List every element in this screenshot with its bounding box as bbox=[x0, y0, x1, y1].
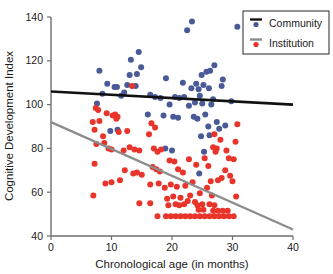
data-point-institution bbox=[173, 201, 179, 207]
data-point-institution bbox=[187, 192, 193, 198]
data-point-community bbox=[186, 103, 192, 109]
x-tick-label: 20 bbox=[166, 241, 178, 253]
data-point-institution bbox=[180, 169, 186, 175]
data-point-community bbox=[138, 64, 144, 70]
y-axis-title: Cognitive Development Index bbox=[3, 51, 15, 201]
data-point-community bbox=[194, 116, 200, 122]
data-point-institution bbox=[90, 119, 96, 125]
data-point-institution bbox=[202, 155, 208, 161]
data-point-institution bbox=[92, 161, 98, 167]
data-point-institution bbox=[104, 110, 110, 116]
data-point-community bbox=[180, 80, 186, 86]
y-tick-label: 140 bbox=[25, 11, 43, 23]
data-point-institution bbox=[129, 83, 135, 89]
data-point-community bbox=[163, 75, 169, 81]
data-point-community bbox=[196, 86, 202, 92]
data-point-institution bbox=[233, 194, 239, 200]
data-point-institution bbox=[139, 172, 145, 178]
y-tick-label: 40 bbox=[31, 230, 43, 242]
x-tick-label: 40 bbox=[287, 241, 299, 253]
data-point-community bbox=[161, 113, 167, 119]
data-point-community bbox=[216, 126, 222, 132]
data-point-institution bbox=[162, 185, 168, 191]
legend-marker-community bbox=[253, 22, 258, 27]
data-point-community bbox=[136, 49, 142, 55]
data-point-institution bbox=[164, 196, 170, 202]
data-point-community bbox=[127, 72, 133, 78]
data-point-institution bbox=[147, 200, 153, 206]
data-point-community bbox=[189, 18, 195, 24]
data-point-community bbox=[107, 128, 113, 134]
data-point-community bbox=[222, 122, 228, 128]
data-point-institution bbox=[154, 213, 160, 219]
data-point-community bbox=[200, 82, 206, 88]
data-point-institution bbox=[193, 162, 199, 168]
data-point-institution bbox=[174, 184, 180, 190]
data-point-community bbox=[205, 124, 211, 130]
data-point-institution bbox=[211, 202, 217, 208]
data-point-institution bbox=[197, 190, 203, 196]
data-point-community bbox=[128, 57, 134, 63]
legend-label-community: Community bbox=[269, 17, 323, 29]
data-point-institution bbox=[90, 192, 96, 198]
data-point-community bbox=[214, 119, 220, 125]
x-tick-label: 30 bbox=[227, 241, 239, 253]
data-point-institution bbox=[124, 128, 130, 134]
data-point-community bbox=[219, 83, 225, 89]
data-point-institution bbox=[136, 200, 142, 206]
data-point-institution bbox=[92, 127, 98, 133]
data-point-community bbox=[145, 111, 151, 117]
x-axis-title: Chronological age (in months) bbox=[95, 258, 249, 270]
data-point-institution bbox=[168, 182, 174, 188]
data-point-community bbox=[167, 102, 173, 108]
data-point-institution bbox=[225, 208, 231, 214]
data-point-institution bbox=[156, 180, 162, 186]
data-point-institution bbox=[95, 107, 101, 113]
data-point-institution bbox=[223, 148, 229, 154]
x-tick-label: 10 bbox=[106, 241, 118, 253]
data-point-institution bbox=[100, 133, 106, 139]
data-point-institution bbox=[234, 121, 240, 127]
data-point-community bbox=[201, 149, 207, 155]
data-point-institution bbox=[205, 163, 211, 169]
data-point-institution bbox=[177, 195, 183, 201]
data-point-community bbox=[188, 85, 194, 91]
data-point-community bbox=[196, 171, 202, 177]
data-point-institution bbox=[230, 178, 236, 184]
data-point-institution bbox=[227, 173, 233, 179]
data-point-community bbox=[197, 93, 203, 99]
data-point-community bbox=[202, 111, 208, 117]
data-point-institution bbox=[136, 148, 142, 154]
data-point-institution bbox=[96, 118, 102, 124]
data-point-community bbox=[199, 101, 205, 107]
y-tick-label: 120 bbox=[25, 54, 43, 66]
data-point-institution bbox=[213, 149, 219, 155]
data-point-institution bbox=[170, 194, 176, 200]
data-point-institution bbox=[186, 156, 192, 162]
x-tick-label: 0 bbox=[48, 241, 54, 253]
y-tick-label: 80 bbox=[31, 142, 43, 154]
scatter-plot: 406080100120140010203040 Chronological a… bbox=[0, 0, 333, 274]
data-point-institution bbox=[208, 178, 214, 184]
data-point-community bbox=[199, 72, 205, 78]
data-point-institution bbox=[102, 180, 108, 186]
data-point-community bbox=[207, 68, 213, 74]
data-point-community bbox=[175, 115, 181, 121]
data-point-community bbox=[169, 148, 175, 154]
data-point-community bbox=[193, 81, 199, 87]
data-point-institution bbox=[171, 159, 177, 165]
data-point-community bbox=[198, 133, 204, 139]
chart-legend: CommunityInstitution bbox=[243, 11, 329, 54]
data-point-institution bbox=[117, 177, 123, 183]
data-point-community bbox=[220, 76, 226, 82]
data-point-institution bbox=[231, 213, 237, 219]
chart-screenshot: 406080100120140010203040 Chronological a… bbox=[0, 0, 333, 274]
data-point-community bbox=[184, 27, 190, 33]
data-point-community bbox=[114, 84, 120, 90]
data-point-institution bbox=[211, 131, 217, 137]
data-point-community bbox=[208, 102, 214, 108]
data-point-community bbox=[96, 68, 102, 74]
data-point-institution bbox=[215, 177, 221, 183]
data-point-institution bbox=[222, 167, 228, 173]
legend-label-institution: Institution bbox=[269, 37, 314, 49]
